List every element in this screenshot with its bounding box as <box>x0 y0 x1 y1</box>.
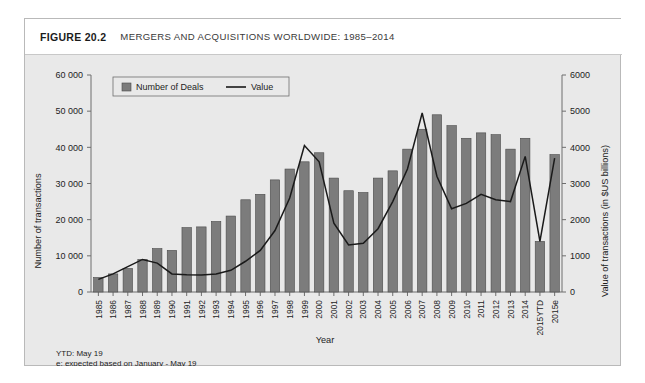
x-axis-tick-label: 2011 <box>476 300 486 318</box>
x-axis-tick-label: 2015e <box>550 300 560 324</box>
x-axis-tick-label: 1998 <box>285 300 295 319</box>
figure-panel: FIGURE 20.2 MERGERS AND ACQUISITIONS WOR… <box>24 18 621 366</box>
x-axis-tick-label: 2008 <box>432 300 442 319</box>
y-axis-left-tick-label: 50 000 <box>55 106 83 116</box>
x-axis-tick-label: 2003 <box>358 300 368 319</box>
x-axis-tick-label: 2004 <box>373 300 383 319</box>
x-axis-tick-label: 2009 <box>447 300 457 319</box>
x-axis: 1985198619871988198919901991199219931994… <box>91 292 562 335</box>
value-line-path <box>98 113 554 279</box>
y-axis-left: 010 00020 00030 00040 00050 00060 000 <box>55 70 91 297</box>
y-axis-left-tick-label: 20 000 <box>55 215 83 225</box>
x-axis-tick-label: 1985 <box>94 300 104 319</box>
x-axis-tick-label: 1992 <box>197 300 207 319</box>
x-axis-tick-label: 2010 <box>462 300 472 319</box>
x-axis-tick-label: 1996 <box>255 300 265 319</box>
line-series-value <box>98 113 554 279</box>
bar <box>462 138 471 292</box>
chart-area: 010 00020 00030 00040 00050 00060 000 01… <box>25 55 622 366</box>
x-axis-tick-label: 2013 <box>506 300 516 319</box>
y-axis-left-label: Number of transactions <box>33 173 43 268</box>
x-axis-tick-label: 1997 <box>270 300 280 319</box>
y-axis-left-tick-label: 40 000 <box>55 143 83 153</box>
x-axis-tick-label: 1991 <box>182 300 192 319</box>
legend-label-number-of-deals: Number of Deals <box>136 82 204 92</box>
x-axis-tick-label: 1993 <box>211 300 221 319</box>
x-axis-tick-label: 2006 <box>403 300 413 319</box>
bar <box>94 278 103 292</box>
x-axis-tick-label: 2014 <box>520 300 530 319</box>
legend-swatch-number-of-deals <box>122 83 131 91</box>
y-axis-right: 0100020003000400050006000 <box>562 70 590 297</box>
y-axis-left-tick-label: 0 <box>78 287 83 297</box>
y-axis-right-tick-label: 4000 <box>570 143 590 153</box>
x-axis-tick-label: 1986 <box>108 300 118 319</box>
bar <box>417 129 426 292</box>
x-axis-tick-label: 1995 <box>241 300 251 319</box>
mergers-acquisitions-chart: 010 00020 00030 00040 00050 00060 000 01… <box>25 55 622 366</box>
bar <box>153 249 162 292</box>
y-axis-right-tick-label: 5000 <box>570 106 590 116</box>
figure-title: MERGERS AND ACQUISITIONS WORLDWIDE: 1985… <box>120 31 394 42</box>
bar <box>432 115 441 292</box>
x-axis-tick-label: 2002 <box>344 300 354 319</box>
x-axis-tick-label: 2012 <box>491 300 501 319</box>
bar <box>491 135 500 292</box>
x-axis-tick-label: 2007 <box>417 300 427 319</box>
bar <box>241 200 250 292</box>
bar <box>476 133 485 292</box>
bar <box>300 162 309 292</box>
bar <box>256 194 265 292</box>
x-axis-tick-label: 1999 <box>300 300 310 319</box>
x-axis-tick-label: 2001 <box>329 300 339 319</box>
bar <box>123 268 132 292</box>
x-axis-tick-label: 1990 <box>167 300 177 319</box>
bar <box>197 227 206 292</box>
y-axis-left-tick-label: 30 000 <box>55 179 83 189</box>
y-axis-right-tick-label: 3000 <box>570 179 590 189</box>
bar <box>388 171 397 292</box>
footnote-expected: e: expected based on January - May 19 <box>56 359 197 366</box>
bar <box>520 138 529 292</box>
bar <box>506 149 515 292</box>
bar <box>108 274 117 292</box>
bar <box>535 241 544 292</box>
figure-number: FIGURE 20.2 <box>40 31 106 43</box>
bar <box>329 178 338 292</box>
footnote-ytd: YTD: May 19 <box>56 349 103 358</box>
bar <box>138 259 147 292</box>
x-axis-tick-label: 1989 <box>152 300 162 319</box>
x-axis-tick-label: 2015YTD <box>535 300 545 335</box>
figure-title-bar: FIGURE 20.2 MERGERS AND ACQUISITIONS WOR… <box>25 19 622 55</box>
y-axis-left-tick-label: 10 000 <box>55 251 83 261</box>
bar <box>373 178 382 292</box>
bar-series-number-of-deals <box>94 115 560 292</box>
y-axis-right-tick-label: 2000 <box>570 215 590 225</box>
y-axis-right-tick-label: 6000 <box>570 70 590 80</box>
x-axis-tick-label: 1987 <box>123 300 133 319</box>
x-axis-tick-label: 2000 <box>314 300 324 319</box>
chart-legend: Number of DealsValue <box>113 77 289 96</box>
y-axis-left-tick-label: 60 000 <box>55 70 83 80</box>
y-axis-right-tick-label: 0 <box>570 287 575 297</box>
legend-label-value: Value <box>251 82 273 92</box>
x-axis-tick-label: 1988 <box>138 300 148 319</box>
bar <box>211 221 220 292</box>
bar <box>226 216 235 292</box>
y-axis-right-tick-label: 1000 <box>570 251 590 261</box>
x-axis-label: Year <box>316 335 335 345</box>
y-axis-right-label: Value of transactions (in $US billions) <box>600 145 610 297</box>
x-axis-tick-label: 2005 <box>388 300 398 319</box>
x-axis-tick-label: 1994 <box>226 300 236 319</box>
bar <box>182 228 191 292</box>
